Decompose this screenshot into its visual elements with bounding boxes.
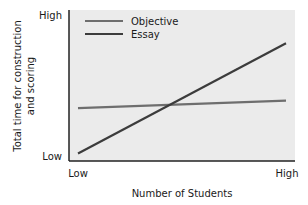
x-axis-title: Number of Students <box>132 188 233 199</box>
x-tick-high: High <box>276 168 299 179</box>
y-tick-low: Low <box>42 151 62 162</box>
plot-area <box>69 10 295 161</box>
legend-label-essay: Essay <box>131 29 160 40</box>
y-axis-title-line-1: Total time for construction <box>12 20 23 152</box>
y-tick-high: High <box>39 10 62 21</box>
legend-label-objective: Objective <box>131 16 178 27</box>
y-axis-title-line-2: and scoring <box>25 57 36 115</box>
x-tick-low: Low <box>68 168 88 179</box>
chart: High Low Low High Number of Students Tot… <box>0 0 308 205</box>
